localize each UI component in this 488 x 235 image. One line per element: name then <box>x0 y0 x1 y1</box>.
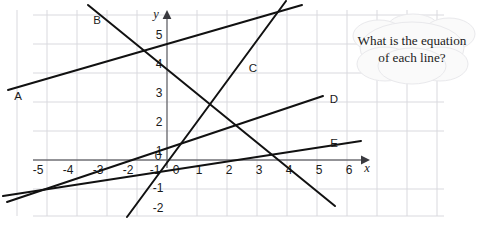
bubble-line-2: of each line? <box>378 50 446 65</box>
y-tick-5: 5 <box>156 28 163 42</box>
line-label-B: B <box>93 14 101 26</box>
line-E <box>3 141 361 196</box>
y-tick-2: 2 <box>156 115 163 129</box>
y-tick--1: -1 <box>153 181 164 195</box>
x-tick-2: 2 <box>226 163 233 177</box>
line-label-group: A B C D E <box>14 14 338 149</box>
x-tick-5: 5 <box>316 163 323 177</box>
question-thought-bubble: What is the equation of each line? <box>353 14 475 84</box>
x-tick-3: 3 <box>256 163 263 177</box>
plotted-lines <box>3 1 361 217</box>
line-D <box>7 96 323 202</box>
y-axis-label: y <box>151 7 159 21</box>
bubble-shape <box>353 14 475 84</box>
coordinate-plane: y x -5 -4 -3 -2 -1 0 1 2 3 4 5 6 5 4 3 2… <box>0 0 488 235</box>
line-label-E: E <box>330 137 338 149</box>
bubble-line-1: What is the equation <box>358 33 467 48</box>
x-tick--4: -4 <box>63 163 74 177</box>
x-tick-labels: -5 -4 -3 -2 -1 0 1 2 3 4 5 6 <box>33 163 353 177</box>
graph-figure: y x -5 -4 -3 -2 -1 0 1 2 3 4 5 6 5 4 3 2… <box>0 0 488 235</box>
y-tick--2: -2 <box>153 201 164 215</box>
line-label-C: C <box>249 62 257 74</box>
x-tick--5: -5 <box>33 163 44 177</box>
x-axis-label: x <box>363 161 370 175</box>
x-tick-6: 6 <box>346 163 353 177</box>
line-label-D: D <box>330 93 338 105</box>
y-tick-3: 3 <box>156 86 163 100</box>
line-label-A: A <box>14 90 22 102</box>
x-tick--2: -2 <box>123 163 134 177</box>
y-tick-labels: 5 4 3 2 1 0 -1 -2 <box>153 28 164 215</box>
